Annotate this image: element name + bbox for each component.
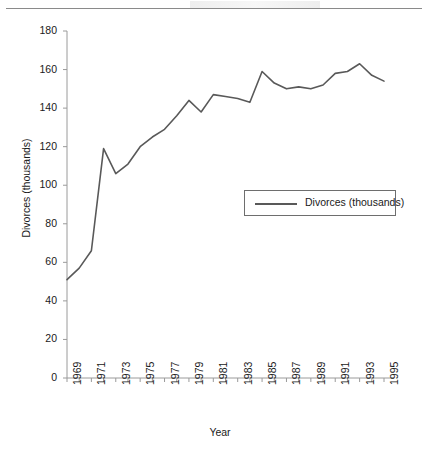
x-tick-label: 1983 [242,362,254,385]
y-tick-label: 160 [21,63,57,75]
x-tick-label: 1981 [217,362,229,385]
chart-page: 020406080100120140160180 196919711973197… [0,0,428,451]
x-tick-label: 1975 [144,362,156,385]
x-tick-label: 1971 [95,362,107,385]
x-tick-label: 1973 [120,362,132,385]
x-tick-label: 1985 [266,362,278,385]
y-tick-label: 20 [21,332,57,344]
x-tick-label: 1977 [169,362,181,385]
x-tick-label: 1991 [339,362,351,385]
x-tick-label: 1989 [315,362,327,385]
legend-line-swatch [255,203,297,205]
x-tick-label: 1993 [364,362,376,385]
y-tick-label: 0 [21,371,57,383]
y-tick-label: 40 [21,294,57,306]
x-tick-label: 1969 [71,362,83,385]
y-axis-title: Divorces (thousands) [20,88,32,288]
y-tick-label: 180 [21,24,57,36]
legend-label: Divorces (thousands) [305,196,404,208]
x-tick-label: 1979 [193,362,205,385]
x-tick-label: 1995 [388,362,400,385]
x-axis-title: Year [160,426,280,438]
line-chart: 020406080100120140160180 196919711973197… [0,0,428,451]
legend: Divorces (thousands) [244,190,396,216]
x-tick-label: 1987 [290,362,302,385]
y-tick-marks [63,31,67,378]
data-series-line [67,64,384,280]
